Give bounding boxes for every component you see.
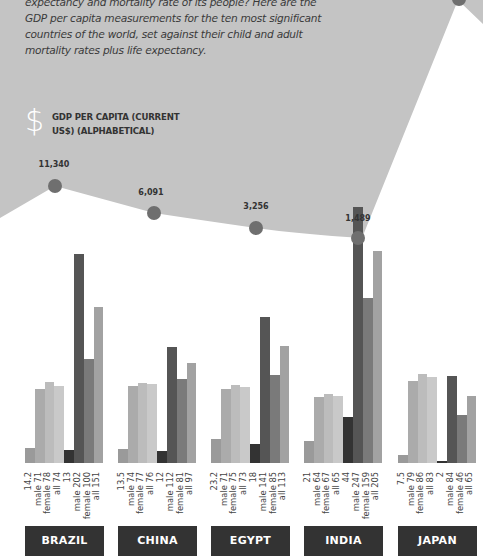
bar [221,389,231,463]
bar [177,379,187,463]
bar [418,374,428,463]
bar [280,346,290,463]
bar [398,455,408,463]
bar-label: all 113 [280,472,290,524]
bar [467,396,477,463]
gdp-dot-egypt [249,221,263,235]
bar [250,444,260,463]
bar [118,449,128,463]
bar [35,389,45,463]
gdp-value-india: 1,489 [345,214,370,223]
bar [333,396,343,463]
bar-label: all 151 [94,472,104,524]
bar [314,397,324,463]
bar [457,415,467,463]
bar [74,254,84,463]
country-label: INDIA [304,526,383,556]
country-label: EGYPT [211,526,290,556]
bar-label: all 65 [467,472,477,524]
bar [138,383,148,463]
bar-label: all 205 [373,472,383,524]
country-group-egypt: 23.2male 71female 75all 7318male 141fema… [211,0,291,559]
bar [128,386,138,463]
bar-label-text: all 97 [186,472,196,524]
bar [231,385,241,463]
gdp-dot-brazil [48,179,62,193]
bar-label-text: all 83 [426,472,436,524]
country-label: BRAZIL [25,526,104,556]
bar [343,417,353,463]
bar [270,375,280,463]
country-label: JAPAN [398,526,477,556]
bar [373,251,383,463]
bar-label-text: all 113 [279,472,289,524]
bar [94,307,104,463]
bar [437,461,447,463]
bar-label-text: all 151 [93,472,103,524]
bar [363,298,373,463]
bar [147,384,157,463]
bar-label: all 97 [187,472,197,524]
bar [427,377,437,463]
country-group-india: 21male 64female 67all 6544male 247female… [304,0,384,559]
country-group-china: 13.5male 74female 77all 7612male 112fema… [118,0,198,559]
bar [84,359,94,463]
country-label: CHINA [118,526,197,556]
bar [260,317,270,463]
bar [54,386,64,463]
bar [408,381,418,463]
bar-label-text: all 65 [466,472,476,524]
bar [324,394,334,463]
bar [157,451,167,463]
bar-label-text: all 205 [372,472,382,524]
bar [240,387,250,463]
bar [45,382,55,463]
bar [211,439,221,463]
bar [304,441,314,463]
bar [25,448,35,463]
bar [64,450,74,463]
gdp-dot-india [351,231,365,245]
bar [167,347,177,463]
bar [353,207,363,463]
country-group-japan: 7.5male 79female 86all 832male 84female … [398,0,478,559]
bar [447,376,457,463]
gdp-dot-china [147,206,161,220]
bar [187,363,197,463]
country-group-brazil: 14.2male 71female 78all 7413male 202fema… [25,0,105,559]
